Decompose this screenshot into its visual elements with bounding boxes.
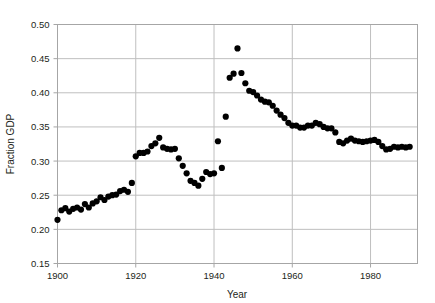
data-point xyxy=(195,183,201,189)
y-tick-label: 0.45 xyxy=(31,53,50,64)
y-tick-label: 0.30 xyxy=(31,156,50,167)
data-point xyxy=(125,189,131,195)
y-tick-label: 0.50 xyxy=(31,19,50,30)
data-point xyxy=(176,155,182,161)
scatter-chart: 0.150.200.250.300.350.400.450.50 1900192… xyxy=(0,0,435,303)
data-point xyxy=(152,140,158,146)
x-axis-title: Year xyxy=(227,289,248,300)
x-tick-label: 1940 xyxy=(203,270,224,281)
data-point xyxy=(211,170,217,176)
data-point xyxy=(238,70,244,76)
data-point xyxy=(215,138,221,144)
x-tick-label: 1960 xyxy=(282,270,303,281)
data-point xyxy=(270,103,276,109)
chart-background xyxy=(0,0,435,303)
data-point xyxy=(234,45,240,51)
data-point xyxy=(144,148,150,154)
data-point xyxy=(242,80,248,86)
data-point xyxy=(180,163,186,169)
y-axis-title: Fraction GDP xyxy=(5,113,16,174)
data-point xyxy=(129,180,135,186)
data-point xyxy=(199,176,205,182)
y-tick-label: 0.35 xyxy=(31,121,50,132)
x-tick-label: 1900 xyxy=(47,270,68,281)
y-tick-label: 0.25 xyxy=(31,190,50,201)
data-point xyxy=(230,71,236,77)
data-point xyxy=(156,135,162,141)
data-point xyxy=(172,146,178,152)
data-point xyxy=(332,129,338,135)
y-tick-label: 0.20 xyxy=(31,224,50,235)
data-point xyxy=(407,144,413,150)
y-tick-label: 0.40 xyxy=(31,87,50,98)
data-point xyxy=(54,217,60,223)
data-point xyxy=(184,170,190,176)
data-point xyxy=(281,115,287,121)
data-point xyxy=(219,165,225,171)
x-tick-label: 1980 xyxy=(360,270,381,281)
x-tick-label: 1920 xyxy=(125,270,146,281)
data-point xyxy=(78,206,84,212)
data-point xyxy=(223,114,229,120)
y-tick-label: 0.15 xyxy=(31,258,50,269)
chart-page: 0.150.200.250.300.350.400.450.50 1900192… xyxy=(0,0,435,303)
